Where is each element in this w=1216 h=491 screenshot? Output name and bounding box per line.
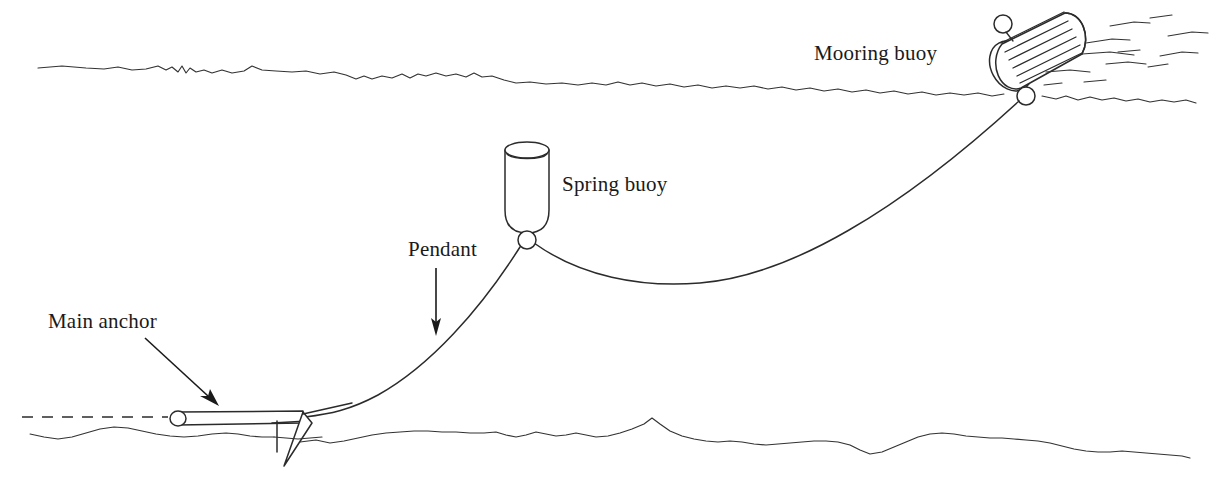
label-pendant: Pendant [408,237,477,261]
mooring-buoy-bottom-ring [1017,87,1035,105]
spring-buoy [505,142,549,249]
pendant-mooring-line [305,247,520,417]
main-anchor-leader-arrow [145,338,219,406]
pendant-leader-arrow [431,268,441,336]
spring-buoy-top-rim [505,142,549,158]
spring-buoy-body [505,150,549,233]
mooring-buoy-top-ring [994,15,1012,33]
main-anchor [170,403,352,466]
mooring-buoy [981,12,1086,105]
label-spring-buoy: Spring buoy [562,172,668,196]
spring-buoy-ring [518,231,536,249]
anchor-head-ring [170,411,186,426]
diagram-canvas: Mooring buoy Spring buoy Pendant Main an… [0,0,1216,491]
label-mooring-buoy: Mooring buoy [814,41,937,65]
label-main-anchor: Main anchor [48,309,157,333]
mooring-diagram: Mooring buoy Spring buoy Pendant Main an… [0,0,1216,491]
